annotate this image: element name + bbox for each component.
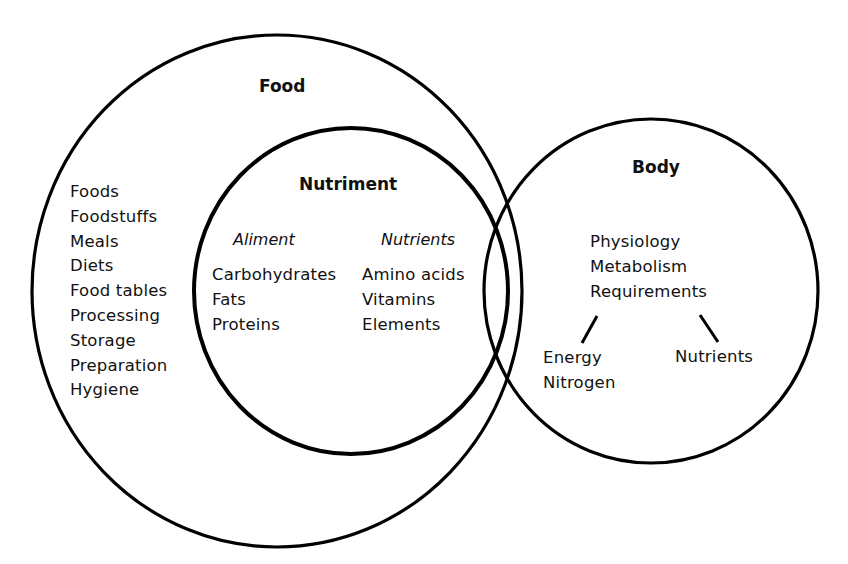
- nutrients-heading: Nutrients: [381, 232, 455, 248]
- nutrient-item: Vitamins: [362, 288, 465, 313]
- food-item: Preparation: [70, 354, 168, 379]
- body-items-list: Physiology Metabolism Requirements: [590, 230, 707, 304]
- body-branch-left-list: Energy Nitrogen: [543, 346, 616, 396]
- aliment-item: Proteins: [212, 313, 336, 338]
- nutrients-items-list: Amino acids Vitamins Elements: [362, 263, 465, 337]
- food-title: Food: [259, 78, 305, 95]
- food-item: Hygiene: [70, 378, 168, 403]
- aliment-item: Carbohydrates: [212, 263, 336, 288]
- body-item: Metabolism: [590, 255, 707, 280]
- food-item: Storage: [70, 329, 168, 354]
- branch-right-item: Nutrients: [675, 345, 753, 370]
- branch-line-left: [582, 316, 597, 343]
- body-item: Physiology: [590, 230, 707, 255]
- food-item: Processing: [70, 304, 168, 329]
- aliment-heading: Aliment: [233, 232, 295, 248]
- nutrient-item: Amino acids: [362, 263, 465, 288]
- branch-left-item: Energy: [543, 346, 616, 371]
- food-item: Foodstuffs: [70, 205, 168, 230]
- branch-left-item: Nitrogen: [543, 371, 616, 396]
- aliment-items-list: Carbohydrates Fats Proteins: [212, 263, 336, 337]
- body-title: Body: [632, 159, 680, 176]
- aliment-item: Fats: [212, 288, 336, 313]
- nutrient-item: Elements: [362, 313, 465, 338]
- food-item: Foods: [70, 180, 168, 205]
- body-branch-right-list: Nutrients: [675, 345, 753, 370]
- food-item: Food tables: [70, 279, 168, 304]
- branch-line-right: [700, 315, 718, 342]
- food-items-list: Foods Foodstuffs Meals Diets Food tables…: [70, 180, 168, 403]
- food-item: Diets: [70, 254, 168, 279]
- food-item: Meals: [70, 230, 168, 255]
- nutriment-title: Nutriment: [299, 176, 397, 193]
- body-item: Requirements: [590, 280, 707, 305]
